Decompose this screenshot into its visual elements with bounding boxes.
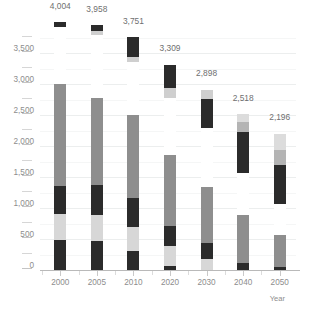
y-axis-tick-mark: [22, 82, 32, 83]
x-axis-label-2040: 2040: [223, 278, 263, 287]
y-axis-minor-tick-mark: [22, 129, 32, 130]
bar-segment-light-gray: [91, 215, 103, 241]
bar-2030[interactable]: [201, 10, 213, 270]
y-axis-tick-mark: [22, 175, 32, 176]
bar-2040[interactable]: [237, 10, 249, 270]
stacked-bar-chart: 05001,0001,5002,0002,5003,0003,500 4,004…: [0, 0, 311, 317]
x-axis-tick-mark-2040: [243, 271, 244, 276]
y-axis-minor-tick-mark: [22, 36, 32, 37]
bar-segment-cap-light: [91, 31, 103, 35]
bar-segment-cap-light: [164, 88, 176, 98]
bar-segment-base-dark: [91, 241, 103, 270]
bar-segment-cap-dark: [54, 22, 66, 27]
x-axis-title: Year: [270, 294, 285, 303]
y-axis-tick-mark: [22, 51, 32, 52]
bar-segment-light-gray: [164, 246, 176, 266]
bar-2005[interactable]: [91, 10, 103, 270]
x-axis-minor-tick-mark: [152, 271, 153, 275]
bar-segment-gap: [164, 98, 176, 154]
x-axis-tick-mark-2010: [133, 271, 134, 276]
bar-total-label-2020: 3,309: [147, 43, 193, 53]
bar-segment-cap-dark: [91, 25, 103, 32]
bar-2050[interactable]: [274, 10, 286, 270]
bar-2010[interactable]: [127, 10, 139, 270]
plot-area: 4,0043,9583,7513,3092,8982,5182,196: [40, 10, 296, 270]
bar-segment-gap: [274, 204, 286, 235]
y-axis-minor-tick-mark: [22, 253, 32, 254]
bar-segment-cap-dark: [201, 99, 213, 128]
bar-segment-mid-dark: [201, 243, 213, 259]
bar-segment-gap: [91, 35, 103, 98]
bar-total-label-2040: 2,518: [220, 93, 266, 103]
bar-segment-tall-gray: [237, 215, 249, 263]
bar-segment-mid-dark: [127, 198, 139, 227]
bar-total-label-2005: 3,958: [74, 4, 120, 14]
bar-segment-gap: [237, 173, 249, 215]
y-axis-tick-mark: [22, 268, 32, 269]
bar-total-label-2050: 2,196: [257, 112, 303, 122]
x-axis-tick-mark-2050: [280, 271, 281, 276]
bar-segment-cap-mid: [237, 122, 249, 132]
bar-segment-cap-mid: [274, 150, 286, 165]
bar-segment-base-light: [201, 259, 213, 270]
bar-segment-tall-gray: [274, 235, 286, 267]
x-axis-tick-mark-2000: [60, 271, 61, 276]
x-axis-minor-tick-mark: [261, 271, 262, 275]
bar-segment-gap: [127, 62, 139, 115]
bar-segment-base-dark: [54, 240, 66, 270]
x-axis-label-2030: 2030: [187, 278, 227, 287]
bar-segment-tall-gray: [54, 84, 66, 186]
bar-segment-gap: [201, 128, 213, 187]
x-axis-minor-tick-mark: [79, 271, 80, 275]
bar-segment-cap-dark: [164, 65, 176, 88]
x-axis-label-2005: 2005: [77, 278, 117, 287]
bar-total-label-2030: 2,898: [184, 68, 230, 78]
bar-segment-gap: [54, 27, 66, 84]
x-axis-tick-mark-2030: [207, 271, 208, 276]
bar-segment-tall-gray: [201, 187, 213, 244]
bar-2000[interactable]: [54, 10, 66, 270]
bar-segment-light-gray: [127, 227, 139, 251]
x-axis-label-2000: 2000: [40, 278, 80, 287]
y-axis-tick-mark: [22, 206, 32, 207]
x-axis-label-2050: 2050: [260, 278, 300, 287]
bar-segment-mid-dark: [54, 186, 66, 215]
x-axis-tick-mark-2020: [170, 271, 171, 276]
y-axis-minor-tick-mark: [22, 222, 32, 223]
bar-segment-cap-light: [127, 57, 139, 61]
x-axis-tick-mark-2005: [97, 271, 98, 276]
bar-segment-mid-dark: [91, 185, 103, 215]
x-axis-label-2020: 2020: [150, 278, 190, 287]
x-axis-minor-tick-mark: [225, 271, 226, 275]
bar-segment-cap-dark: [274, 165, 286, 204]
bar-segment-cap-dark: [127, 37, 139, 57]
bar-segment-tall-gray: [164, 155, 176, 226]
bar-segment-base-dark: [127, 251, 139, 270]
y-axis-minor-tick-mark: [22, 67, 32, 68]
bar-segment-cap-light: [201, 90, 213, 99]
x-axis-minor-tick-mark: [115, 271, 116, 275]
bar-segment-cap-dark: [237, 132, 249, 173]
bar-total-label-2010: 3,751: [110, 16, 156, 26]
x-axis-minor-tick-mark: [188, 271, 189, 275]
y-axis-tick-mark: [22, 144, 32, 145]
bar-segment-mid-dark: [164, 226, 176, 246]
x-axis-label-2010: 2010: [113, 278, 153, 287]
y-axis-tick-mark: [22, 237, 32, 238]
y-axis-minor-tick-mark: [22, 160, 32, 161]
y-axis-minor-tick-mark: [22, 191, 32, 192]
y-axis-tick-mark: [22, 113, 32, 114]
bar-segment-cap-light: [237, 114, 249, 123]
bar-segment-light-gray: [54, 214, 66, 239]
bar-segment-base-dark: [237, 263, 249, 270]
y-axis-minor-tick-mark: [22, 98, 32, 99]
bar-segment-tall-gray: [127, 115, 139, 198]
bar-segment-tall-gray: [91, 98, 103, 185]
x-axis-minor-tick-mark: [42, 271, 43, 275]
bar-segment-cap-light: [274, 134, 286, 150]
